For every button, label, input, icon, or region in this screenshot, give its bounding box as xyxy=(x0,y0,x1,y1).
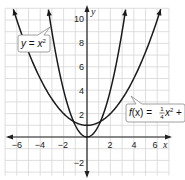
x-tick-label: 2 xyxy=(107,140,112,150)
label-y-equals-x-squared: y = x2 xyxy=(18,27,50,52)
y-axis xyxy=(85,5,90,178)
x-tick-label: −6 xyxy=(12,140,22,150)
y-tick-label: 4 xyxy=(79,86,84,96)
y-tick-label: 6 xyxy=(79,62,84,72)
coordinate-plane: −6 −4 −2 2 4 6 x 10 8 6 4 2 −2 y y = x2 … xyxy=(0,0,185,180)
x-tick-label: 6 xyxy=(152,140,157,150)
x-tick-label: −4 xyxy=(35,140,45,150)
y-tick-label: 10 xyxy=(74,14,84,24)
label-f-of-x: f(x) = 1 4 x2 + 1 xyxy=(126,96,185,122)
x-tick-label: −2 xyxy=(58,140,68,150)
label-text: f(x) = xyxy=(129,107,152,118)
label-text-tail: x2 + 1 xyxy=(164,107,185,118)
y-axis-arrow-down-icon xyxy=(85,171,90,178)
x-tick-label: 4 xyxy=(131,140,136,150)
y-tick-labels: 10 8 6 4 2 −2 y xyxy=(74,6,96,168)
y-tick-label: 8 xyxy=(79,38,84,48)
y-tick-label: −2 xyxy=(74,158,84,168)
curve-arrow-icon xyxy=(47,10,52,16)
y-tick-label: 2 xyxy=(79,110,84,120)
y-axis-label: y xyxy=(90,6,96,17)
x-axis-arrow-left-icon xyxy=(6,135,13,140)
x-axis-label: x xyxy=(162,139,168,150)
curve-arrow-icon xyxy=(122,10,127,16)
